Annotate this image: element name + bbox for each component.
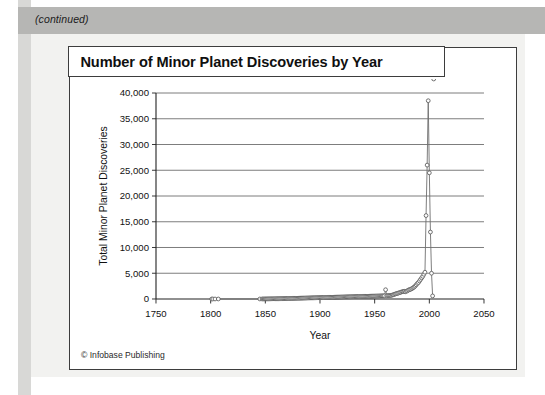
book-page: (continued) Number of Minor Planet Disco… — [0, 0, 545, 395]
chart-title-bar: Number of Minor Planet Discoveries by Ye… — [68, 46, 445, 77]
y-tick-label: 0 — [144, 293, 149, 304]
y-tick-label: 20,000 — [120, 190, 149, 201]
x-tick-label: 2000 — [419, 308, 440, 319]
data-point — [216, 297, 220, 301]
x-tick-label: 1950 — [364, 308, 385, 319]
y-tick-label: 5,000 — [125, 268, 149, 279]
page-left-margin — [0, 0, 18, 395]
x-tick-labels-group: 1750180018501900195020002050 — [145, 299, 494, 319]
y-tick-label: 30,000 — [120, 139, 149, 150]
data-point — [426, 99, 430, 103]
x-tick-label: 1850 — [255, 308, 276, 319]
y-tick-label: 15,000 — [120, 216, 149, 227]
data-point — [430, 271, 434, 275]
continued-header-band: (continued) — [18, 7, 545, 34]
y-tick-label: 25,000 — [120, 165, 149, 176]
x-tick-label: 1750 — [145, 308, 166, 319]
minor-planet-discoveries-scatter-plot: 05,00010,00015,00020,00025,00030,00035,0… — [70, 79, 515, 367]
x-tick-label: 2050 — [473, 308, 494, 319]
y-tick-labels-group: 05,00010,00015,00020,00025,00030,00035,0… — [120, 87, 156, 304]
y-axis-title: Total Minor Planet Discoveries — [98, 126, 109, 266]
x-axis-title: Year — [310, 330, 332, 341]
data-point — [429, 230, 433, 234]
y-tick-label: 40,000 — [120, 87, 149, 98]
page-gutter-strip — [18, 0, 31, 395]
data-point — [423, 270, 427, 274]
data-point — [384, 288, 388, 292]
data-point — [427, 171, 431, 175]
x-tick-label: 1900 — [309, 308, 330, 319]
data-series-group — [210, 79, 436, 301]
figure-panel: Number of Minor Planet Discoveries by Ye… — [31, 34, 525, 377]
data-point — [425, 163, 429, 167]
data-point — [424, 214, 428, 218]
series-line — [212, 101, 433, 299]
continued-label: (continued) — [35, 13, 89, 25]
chart-container: Number of Minor Planet Discoveries by Ye… — [69, 47, 517, 370]
y-tick-label: 10,000 — [120, 242, 149, 253]
x-tick-label: 1800 — [200, 308, 221, 319]
gridlines-group — [156, 93, 484, 273]
data-point — [431, 294, 435, 298]
data-point — [432, 79, 436, 81]
page-title: Number of Minor Planet Discoveries by Ye… — [69, 54, 382, 70]
plot-area: 05,00010,00015,00020,00025,00030,00035,0… — [70, 79, 515, 367]
copyright-credit: © Infobase Publishing — [81, 350, 165, 360]
y-tick-label: 35,000 — [120, 113, 149, 124]
